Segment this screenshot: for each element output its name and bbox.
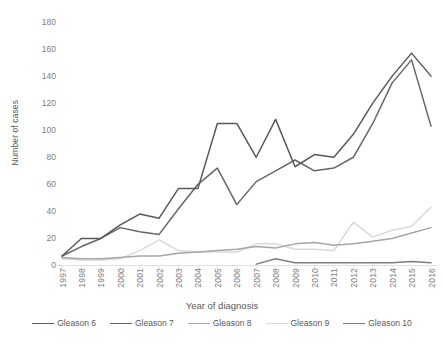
legend-color-swatch bbox=[266, 323, 288, 324]
legend-color-swatch bbox=[110, 323, 132, 324]
x-axis-title-text: Year of diagnosis bbox=[186, 300, 259, 311]
legend-label: Gleason 8 bbox=[213, 318, 252, 328]
x-axis-tick-label: 2004 bbox=[193, 268, 203, 288]
legend-label: Gleason 9 bbox=[291, 318, 330, 328]
x-axis-tick-label: 2013 bbox=[368, 268, 378, 288]
x-axis-tick-label: 2014 bbox=[388, 268, 398, 288]
x-axis-tick-label: 2007 bbox=[252, 268, 262, 288]
legend-item[interactable]: Gleason 7 bbox=[110, 318, 174, 328]
x-axis-tick-label: 2016 bbox=[427, 268, 437, 288]
x-axis-tick-label: 2011 bbox=[329, 268, 339, 287]
x-axis-tick-label: 2001 bbox=[135, 268, 145, 288]
x-axis-tick-label: 2010 bbox=[310, 268, 320, 288]
legend-label: Gleason 10 bbox=[368, 318, 411, 328]
x-axis-tick-label: 2002 bbox=[155, 268, 165, 288]
series-line-gleason-10 bbox=[256, 259, 431, 264]
x-axis-tick-label: 1999 bbox=[96, 268, 106, 288]
legend-color-swatch bbox=[188, 323, 210, 324]
series-line-gleason-6 bbox=[62, 53, 431, 256]
legend-color-swatch bbox=[32, 323, 54, 324]
x-axis-tick-label: 1997 bbox=[58, 268, 68, 288]
legend-item[interactable]: Gleason 10 bbox=[343, 318, 411, 328]
x-axis-tick-label: 2008 bbox=[271, 268, 281, 288]
x-axis-tick-label: 2006 bbox=[232, 268, 242, 288]
x-axis-tick-label: 2015 bbox=[407, 268, 417, 288]
x-axis-tick-label: 2003 bbox=[174, 268, 184, 288]
legend-label: Gleason 7 bbox=[135, 318, 174, 328]
x-axis-tick-label: 2005 bbox=[213, 268, 223, 288]
series-line-gleason-8 bbox=[62, 228, 431, 259]
legend-item[interactable]: Gleason 6 bbox=[32, 318, 96, 328]
x-axis-tick-label: 2012 bbox=[349, 268, 359, 288]
line-chart: Number of cases 020406080100120140160180… bbox=[0, 0, 444, 349]
legend-item[interactable]: Gleason 9 bbox=[266, 318, 330, 328]
x-axis-tick-label: 2009 bbox=[291, 268, 301, 288]
legend-color-swatch bbox=[343, 323, 365, 324]
legend-item[interactable]: Gleason 8 bbox=[188, 318, 252, 328]
series-line-gleason-9 bbox=[62, 207, 431, 260]
x-axis-tick-label: 1998 bbox=[77, 268, 87, 288]
chart-legend: Gleason 6Gleason 7Gleason 8Gleason 9Glea… bbox=[0, 318, 444, 328]
x-axis-tick-label: 2000 bbox=[116, 268, 126, 288]
legend-label: Gleason 6 bbox=[57, 318, 96, 328]
x-axis-title: Year of diagnosis bbox=[0, 300, 444, 311]
